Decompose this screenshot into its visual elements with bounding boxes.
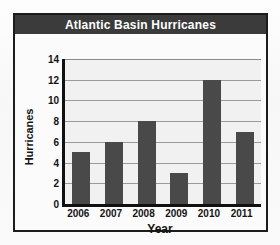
x-axis-title: Year xyxy=(62,222,258,236)
x-tick-label: 2009 xyxy=(160,208,193,219)
x-tick-label: 2007 xyxy=(95,208,128,219)
chart-title-banner: Atlantic Basin Hurricanes xyxy=(15,15,266,34)
bar-slot xyxy=(163,59,196,204)
y-axis-title: Hurricanes xyxy=(21,82,37,192)
chart-title: Atlantic Basin Hurricanes xyxy=(65,18,216,32)
plot-wrapper: Hurricanes 14 12 10 8 6 4 2 0 xyxy=(15,34,266,230)
bar-2006[interactable] xyxy=(72,152,90,204)
bar-2009[interactable] xyxy=(170,173,188,204)
bar-2010[interactable] xyxy=(203,80,221,204)
x-tick-label: 2011 xyxy=(225,208,258,219)
bar-slot xyxy=(130,59,163,204)
bar-2007[interactable] xyxy=(105,142,123,204)
y-tick-label: 0 xyxy=(37,199,59,210)
y-tick-label: 4 xyxy=(37,157,59,168)
page-background: Atlantic Basin Hurricanes Hurricanes 14 … xyxy=(0,0,280,245)
y-tick-label: 10 xyxy=(37,95,59,106)
chart-figure-frame: Atlantic Basin Hurricanes Hurricanes 14 … xyxy=(13,13,268,232)
bar-2008[interactable] xyxy=(138,121,156,204)
y-tick-label: 14 xyxy=(37,54,59,65)
bar-slot xyxy=(196,59,229,204)
y-axis-tick-labels: 14 12 10 8 6 4 2 0 xyxy=(37,59,59,204)
y-axis-title-text: Hurricanes xyxy=(23,109,35,165)
x-tick-label: 2008 xyxy=(127,208,160,219)
y-tick-label: 12 xyxy=(37,74,59,85)
y-tick-label: 8 xyxy=(37,116,59,127)
y-tick-label: 2 xyxy=(37,178,59,189)
bar-slot xyxy=(228,59,261,204)
x-axis-tick-labels: 2006 2007 2008 2009 2010 2011 xyxy=(62,208,258,219)
x-tick-label: 2010 xyxy=(193,208,226,219)
plot-area xyxy=(62,59,261,207)
bars-layer xyxy=(65,59,261,204)
bar-2011[interactable] xyxy=(236,132,254,205)
y-tick-label: 6 xyxy=(37,136,59,147)
x-tick-label: 2006 xyxy=(62,208,95,219)
bar-slot xyxy=(65,59,98,204)
bar-slot xyxy=(98,59,131,204)
